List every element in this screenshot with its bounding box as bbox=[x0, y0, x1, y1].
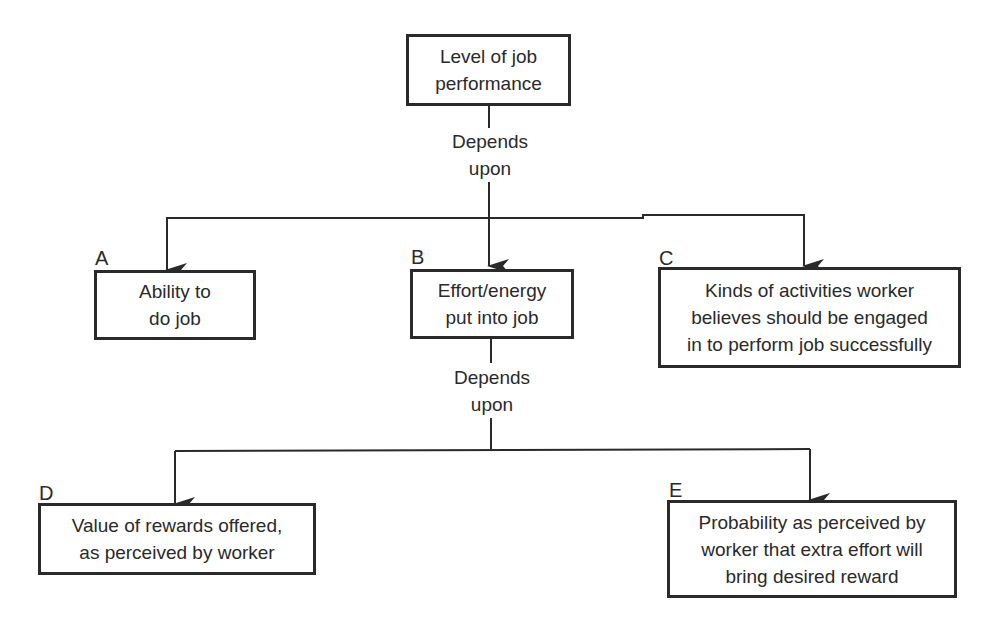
depends-upon-label: Depends upon bbox=[440, 128, 540, 182]
node-box-b-effort: Effort/energy put into job bbox=[410, 269, 574, 339]
node-letter-e: E bbox=[669, 480, 682, 500]
node-box-e-probability: Probability as perceived by worker that … bbox=[667, 500, 957, 598]
depends-upon-label-2: Depends upon bbox=[442, 364, 542, 418]
node-box-c-activities: Kinds of activities worker believes shou… bbox=[658, 267, 961, 368]
node-box-a-ability: Ability to do job bbox=[94, 270, 256, 340]
node-text-c: Kinds of activities worker believes shou… bbox=[687, 277, 932, 358]
node-box-d-rewards-value: Value of rewards offered, as perceived b… bbox=[38, 503, 316, 575]
top-bus-line bbox=[167, 215, 804, 222]
node-letter-a: A bbox=[95, 248, 108, 268]
node-text-b: Effort/energy put into job bbox=[438, 277, 546, 331]
node-letter-d: D bbox=[39, 483, 53, 503]
node-text-e: Probability as perceived by worker that … bbox=[698, 509, 925, 590]
node-letter-b: B bbox=[411, 247, 424, 267]
root-box-job-performance: Level of job performance bbox=[406, 34, 571, 106]
root-box-text: Level of job performance bbox=[435, 43, 542, 97]
bottom-bus-line bbox=[175, 449, 810, 451]
node-letter-c: C bbox=[659, 248, 673, 268]
node-text-d: Value of rewards offered, as perceived b… bbox=[72, 512, 283, 566]
node-text-a: Ability to do job bbox=[139, 278, 211, 332]
